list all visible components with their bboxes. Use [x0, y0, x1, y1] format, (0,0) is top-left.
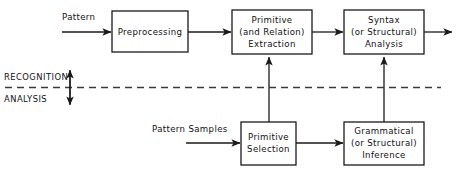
- edge-label-pattern-samples: Pattern Samples: [152, 124, 228, 134]
- box-preprocessing-line-0: Preprocessing: [118, 27, 183, 37]
- diagram-canvas: Preprocessing Primitive (and Relation) E…: [0, 0, 467, 179]
- box-primitive-selection-line-0: Primitive: [248, 132, 289, 142]
- box-primitive-extraction-line-2: Extraction: [248, 39, 295, 49]
- zone-label-analysis: ANALYSIS: [4, 94, 47, 104]
- box-syntax-analysis-line-2: Analysis: [365, 39, 403, 49]
- box-grammatical-inference-line-0: Grammatical: [354, 126, 413, 136]
- box-syntax-analysis-line-0: Syntax: [368, 15, 400, 25]
- box-primitive-extraction-line-0: Primitive: [252, 15, 293, 25]
- block-diagram: Preprocessing Primitive (and Relation) E…: [0, 0, 467, 179]
- box-primitive-extraction-line-1: (and Relation): [239, 27, 305, 37]
- box-syntax-analysis-line-1: (or Structural): [351, 27, 417, 37]
- zone-label-recognition: RECOGNITION: [4, 72, 68, 82]
- edge-label-pattern: Pattern: [62, 12, 95, 22]
- box-primitive-selection-line-1: Selection: [247, 144, 290, 154]
- box-grammatical-inference-line-2: Inference: [362, 150, 406, 160]
- box-grammatical-inference-line-1: (or Structural): [351, 138, 417, 148]
